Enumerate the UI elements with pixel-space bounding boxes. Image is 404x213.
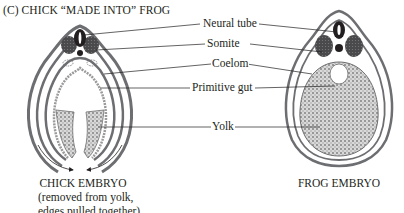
label-neural-tube: Neural tube — [202, 17, 258, 30]
label-yolk: Yolk — [211, 120, 235, 133]
chick-caption-line2: (removed from yolk, — [38, 190, 128, 204]
chick-embryo-caption: CHICK EMBRYO (removed from yolk, edges p… — [38, 176, 128, 213]
frog-embryo-caption: FROG EMBRYO — [296, 176, 382, 190]
frog-embryo-drawing — [286, 11, 392, 166]
label-primitive-gut: Primitive gut — [191, 81, 253, 94]
chick-caption-line1: CHICK EMBRYO — [38, 176, 128, 190]
label-coelom: Coelom — [211, 57, 249, 70]
chick-caption-line3: edges pulled together) — [38, 204, 128, 213]
label-somite: Somite — [206, 37, 241, 50]
chick-embryo-drawing — [28, 26, 131, 172]
figure-title: (C) CHICK “MADE INTO” FROG — [3, 4, 170, 16]
